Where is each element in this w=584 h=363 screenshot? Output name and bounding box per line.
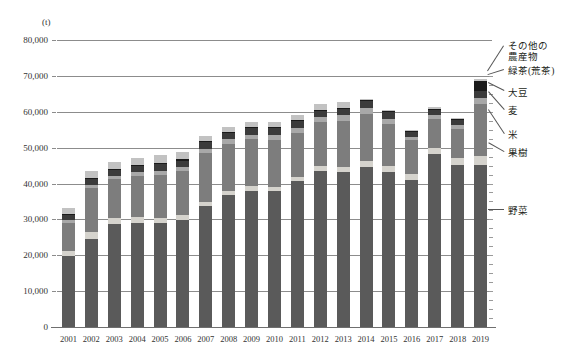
bar-segment-麦 (291, 128, 304, 133)
rail-tick-mark (489, 175, 493, 176)
bar-segment-麦 (85, 185, 98, 188)
x-axis-baseline (51, 327, 496, 328)
bar-segment-米 (382, 124, 395, 167)
bar-segment-果樹 (85, 232, 98, 239)
bar-segment-麦 (474, 98, 487, 103)
rail-tick-mark (489, 273, 493, 274)
bar-segment-麦 (62, 220, 75, 223)
y-axis-tick-label: 60,000 (0, 107, 48, 117)
bar-segment-野菜 (85, 239, 98, 327)
y-axis-tick-mark (52, 184, 56, 185)
rail-tick-mark (489, 264, 493, 265)
bar-2011 (291, 115, 304, 327)
bar-2012 (314, 104, 327, 327)
bar-segment-野菜 (314, 171, 327, 327)
rail-tick-mark (489, 157, 493, 158)
bar-2002 (85, 171, 98, 327)
y-axis-tick-label: 30,000 (0, 214, 48, 224)
y-axis-tick-label: 10,000 (0, 286, 48, 296)
bar-segment-米 (428, 119, 441, 148)
bar-segment-果樹 (337, 167, 350, 173)
y-axis-tick-label: 40,000 (0, 179, 48, 189)
bar-segment-麦 (337, 115, 350, 120)
bar-segment-大豆 (176, 161, 189, 167)
bar-2016 (405, 130, 418, 327)
bar-segment-緑茶(荒茶) (451, 119, 464, 120)
bar-segment-その他の農産物 (176, 152, 189, 160)
bar-segment-米 (108, 179, 121, 218)
legend-label: 麦 (508, 106, 518, 117)
bar-segment-大豆 (108, 170, 121, 176)
rail-tick-mark (489, 246, 493, 247)
bar-segment-果樹 (131, 217, 144, 222)
bar-segment-果樹 (451, 158, 464, 165)
rail-tick-mark (489, 300, 493, 301)
bar-segment-大豆 (199, 142, 212, 148)
bar-segment-麦 (382, 119, 395, 124)
bar-segment-米 (337, 121, 350, 167)
bar-2019 (474, 79, 487, 327)
bar-segment-果樹 (428, 148, 441, 154)
legend-label: 野菜 (508, 206, 528, 217)
bar-segment-その他の農産物 (131, 158, 144, 165)
bar-segment-麦 (451, 125, 464, 130)
stacked-bar-chart: (t) 010,00020,00030,00040,00050,00060,00… (0, 0, 584, 363)
bar-segment-麦 (428, 115, 441, 120)
bar-2003 (108, 162, 121, 327)
bar-segment-麦 (199, 149, 212, 154)
bar-2001 (62, 208, 75, 327)
rail-tick-mark (489, 166, 493, 167)
bar-segment-その他の農産物 (85, 171, 98, 179)
bar-segment-米 (176, 171, 189, 215)
rail-tick-mark (489, 130, 493, 131)
rail-tick-mark (489, 139, 493, 140)
bar-segment-大豆 (474, 91, 487, 99)
bar-2004 (131, 158, 144, 327)
bar-segment-緑茶(荒茶) (108, 169, 121, 170)
bar-segment-緑茶(荒茶) (154, 163, 167, 164)
y-axis-tick-mark (52, 219, 56, 220)
bar-segment-果樹 (62, 251, 75, 256)
leader-line (488, 69, 504, 75)
bar-segment-米 (360, 114, 373, 161)
leader-line (488, 209, 504, 210)
bar-segment-果樹 (268, 187, 281, 192)
bar-segment-その他の農産物 (428, 107, 441, 109)
y-axis-tick-label: 0 (0, 322, 48, 332)
bar-segment-その他の農産物 (382, 110, 395, 111)
bar-segment-その他の農産物 (245, 122, 258, 127)
bar-segment-その他の農産物 (62, 208, 75, 214)
bar-segment-その他の農産物 (199, 136, 212, 141)
bar-segment-米 (245, 139, 258, 186)
rail-tick-mark (489, 76, 493, 77)
bar-segment-米 (291, 133, 304, 176)
bar-segment-野菜 (291, 181, 304, 327)
bar-segment-その他の農産物 (474, 79, 487, 80)
rail-tick-mark (489, 201, 493, 202)
rail-tick-mark (489, 228, 493, 229)
bar-segment-野菜 (451, 165, 464, 327)
gridline (57, 40, 492, 41)
bar-2008 (222, 127, 235, 327)
bar-segment-果樹 (360, 161, 373, 166)
bar-segment-緑茶(荒茶) (62, 214, 75, 215)
bar-segment-大豆 (428, 110, 441, 114)
bar-segment-緑茶(荒茶) (314, 110, 327, 111)
bar-segment-緑茶(荒茶) (405, 131, 418, 132)
bar-segment-果樹 (405, 174, 418, 180)
bar-segment-その他の農産物 (337, 102, 350, 107)
x-axis-tick-label: 2019 (467, 334, 495, 344)
bar-segment-緑茶(荒茶) (131, 165, 144, 166)
y-axis-tick-mark (52, 76, 56, 77)
bar-segment-米 (222, 144, 235, 191)
bar-segment-大豆 (62, 215, 75, 220)
bar-segment-緑茶(荒茶) (176, 159, 189, 160)
bar-2018 (451, 118, 464, 327)
legend-label: 農産物 (508, 52, 538, 63)
bar-segment-麦 (314, 117, 327, 122)
y-axis-tick-mark (52, 40, 56, 41)
bar-2009 (245, 122, 258, 327)
bar-segment-緑茶(荒茶) (428, 109, 441, 110)
y-axis-tick-label: 70,000 (0, 71, 48, 81)
rail-tick-mark (489, 237, 493, 238)
